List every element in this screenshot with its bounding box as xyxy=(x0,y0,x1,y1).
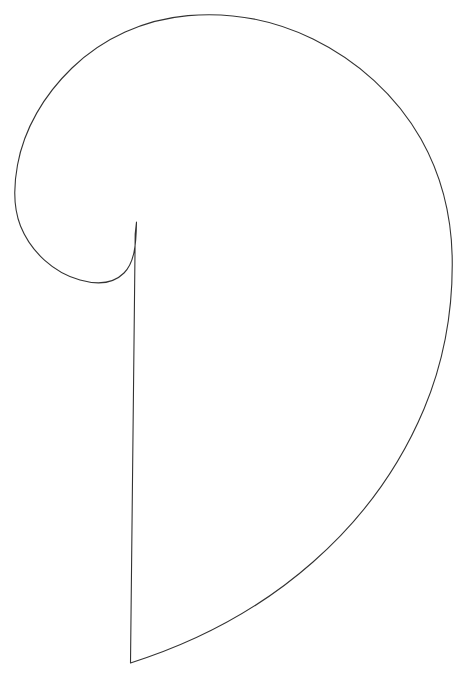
spiral-volute-figure xyxy=(0,0,475,683)
canvas-background xyxy=(0,0,475,683)
figure-canvas: Single closed line-art outline of a spir… xyxy=(0,0,475,683)
